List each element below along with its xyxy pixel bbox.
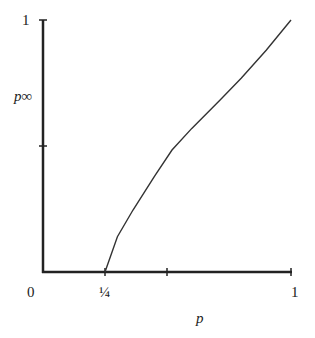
x-tick-label-1: 1 <box>291 284 299 301</box>
x-tick-label-0: 0 <box>27 284 35 301</box>
x-tick-label-quarter: ¼ <box>99 284 110 301</box>
y-tick-label-1: 1 <box>22 12 30 29</box>
x-axis-label: p <box>196 310 204 327</box>
data-curve <box>105 20 291 272</box>
axis-ticks <box>39 20 291 276</box>
y-axis-label: p∞ <box>14 88 32 105</box>
plot-area <box>0 0 315 338</box>
